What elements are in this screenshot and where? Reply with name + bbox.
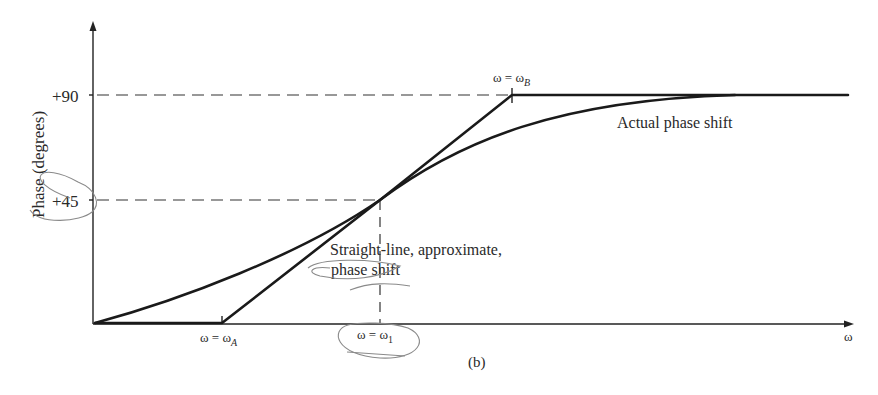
y-axis-label: Phase (degrees)	[29, 111, 48, 218]
y-tick-45: +45	[52, 192, 79, 211]
omega-a-label: ω = ωA	[200, 330, 238, 348]
y-axis-arrow-icon	[90, 21, 97, 31]
figure-caption: (b)	[468, 354, 486, 371]
y-tick-90: +90	[52, 87, 79, 106]
pen-underline-omega1	[347, 352, 405, 356]
x-axis-label: ω	[844, 329, 853, 344]
actual-phase-annotation: Actual phase shift	[617, 114, 733, 132]
approx-phase-line	[95, 95, 848, 323]
approx-annotation-line1: Straight-line, approximate,	[330, 241, 502, 259]
omega-1-label: ω = ω1	[357, 327, 393, 345]
omega-b-label: ω = ωB	[493, 70, 530, 88]
x-axis-arrow-icon	[844, 321, 854, 328]
phase-plot: +90 +45 Phase (degrees) ω = ωA ω = ω1 ω …	[0, 0, 878, 395]
